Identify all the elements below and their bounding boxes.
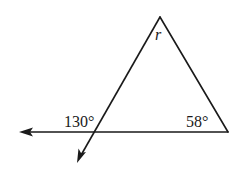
triangle-diagram: r 130° 58°: [0, 0, 239, 169]
exterior-angle-label: 130°: [64, 113, 94, 130]
left-side-extended: [80, 17, 160, 157]
apex-angle-label: r: [155, 26, 162, 43]
bottom-arrowhead-icon: [77, 149, 86, 164]
right-angle-label: 58°: [186, 113, 208, 130]
